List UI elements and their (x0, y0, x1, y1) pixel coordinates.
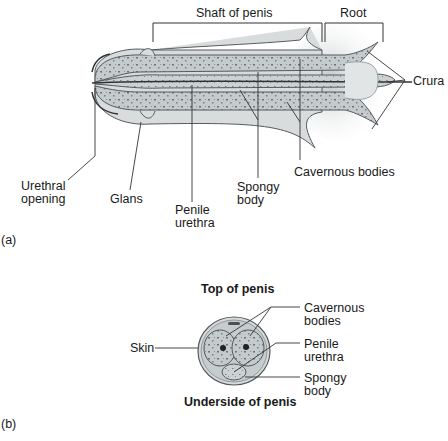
panel-a-label: (a) (1, 234, 16, 247)
spongy-body-label: Spongy body (237, 181, 279, 207)
shaft-of-penis-label: Shaft of penis (196, 7, 272, 20)
cavernous-bodies-b-label: Cavernous bodies (304, 302, 364, 328)
glans-label: Glans (110, 193, 143, 206)
crura-label: Crura (413, 75, 444, 88)
cavernous-bodies-label: Cavernous bodies (294, 166, 395, 179)
panel-b-label: (b) (1, 418, 16, 431)
spongy-body-b-label: Spongy body (304, 372, 346, 398)
top-of-penis-caption: Top of penis (201, 283, 274, 296)
underside-of-penis-caption: Underside of penis (184, 396, 297, 409)
longitudinal-section-illustration (0, 0, 448, 441)
skin-label: Skin (130, 342, 154, 355)
cross-section-illustration (198, 317, 270, 385)
penile-urethra-label: Penile urethra (175, 204, 215, 230)
urethral-opening-label: Urethral opening (21, 180, 66, 206)
penile-urethra-b-label: Penile urethra (304, 338, 344, 364)
root-label: Root (340, 7, 366, 20)
